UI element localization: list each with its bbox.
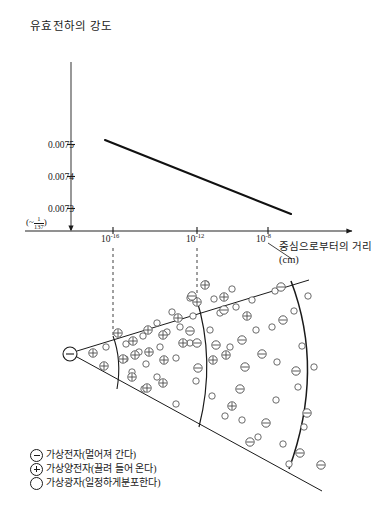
legend-item-virtual-electron: 가상전자(멀어져 간다) <box>30 448 161 462</box>
wedge-arc-middle <box>196 297 207 427</box>
x-axis-tick-label-0: 10-16 <box>101 233 119 245</box>
legend: 가상전자(멀어져 간다) 가상양전자(끌려 들어 온다) 가상광자(일정하게분포… <box>30 448 161 490</box>
x-tick-exponent-2: -8 <box>266 232 271 239</box>
fraction-numerator: 1 <box>37 216 40 223</box>
x-tick-exponent-0: -16 <box>111 232 120 239</box>
x-tick-base-2: 10 <box>256 234 266 244</box>
apex-charge-minus <box>63 347 77 361</box>
y-axis-note: (~ 1 137 ) <box>26 215 47 230</box>
y-axis-note-suffix: ) <box>44 218 47 227</box>
legend-item-label: 가상전자(멀어져 간다) <box>46 448 136 463</box>
legend-item-label: 가상양전자(끌려 들어 온다) <box>46 462 157 477</box>
y-axis-tick-label-0: 0.0075 <box>28 141 74 151</box>
fraction-denominator: 137 <box>34 224 44 231</box>
page-title: 유효전하의 강도 <box>30 21 112 33</box>
data-line-effective-charge <box>105 140 291 214</box>
y-axis-tick-label-1: 0.0074 <box>28 173 74 183</box>
x-tick-base-1: 10 <box>186 234 196 244</box>
x-tick-exponent-1: -12 <box>196 232 205 239</box>
legend-item-virtual-positron: 가상양전자(끌려 들어 온다) <box>30 462 161 476</box>
open-circle-icon <box>30 477 43 490</box>
fraction-one-over-137: 1 137 <box>34 216 44 231</box>
figure-root: 유효전하의 강도 0.0075 0.0074 0.0073 (~ 1 137 )… <box>0 0 377 525</box>
x-tick-base-0: 10 <box>101 234 111 244</box>
legend-item-virtual-photon: 가상광자(일정하게분포한다) <box>30 476 161 490</box>
minus-circle-icon <box>30 449 43 462</box>
y-axis-tick-label-2: 0.0073 <box>28 205 74 215</box>
x-axis-tick-label-2: 10-8 <box>256 233 271 245</box>
axis-group <box>25 62 352 234</box>
x-axis-tick-label-1: 10-12 <box>186 233 204 245</box>
wedge-arc-inner <box>113 336 119 389</box>
x-axis-label: 중심으로부터의 거리(cm) <box>279 240 375 266</box>
legend-item-label: 가상광자(일정하게분포한다) <box>46 476 161 491</box>
plus-circle-icon <box>30 463 43 476</box>
y-axis-note-prefix: (~ <box>26 218 34 227</box>
